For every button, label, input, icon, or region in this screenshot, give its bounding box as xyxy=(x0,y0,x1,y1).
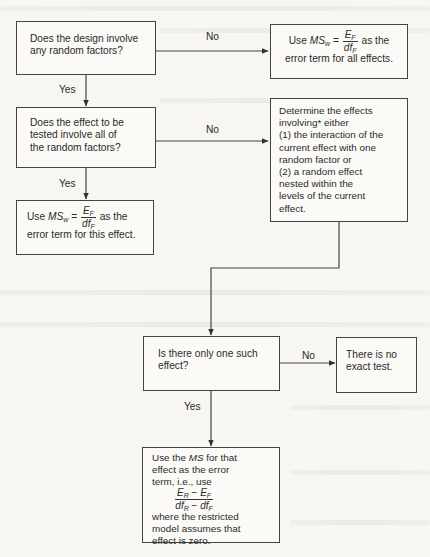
ms-symbol: MS xyxy=(189,452,204,463)
fraction-ef-dff: EFdfF xyxy=(81,206,96,229)
result-no-exact-test: There is no exact test. xyxy=(336,337,417,393)
node-text: effect? xyxy=(158,360,265,372)
process-determine-effects: Determine the effects involving* either … xyxy=(270,98,408,222)
node-text: error term for this effect. xyxy=(27,229,143,241)
node-text: any random factors? xyxy=(30,45,142,57)
edge-label-yes: Yes xyxy=(59,84,76,95)
fraction-er-ef-over-dfr-dff: ER − EF dfR − dfF xyxy=(175,488,213,511)
node-text: effect. xyxy=(279,203,399,215)
node-text: (2) a random effect xyxy=(279,166,399,178)
decision-only-one-effect: Is there only one such effect? xyxy=(143,336,280,391)
node-text: Does the effect to be xyxy=(30,117,142,129)
node-text: levels of the current xyxy=(279,190,399,202)
edge-label-yes: Yes xyxy=(59,178,76,189)
node-text: where the restricted xyxy=(152,511,270,523)
node-text: There is no xyxy=(346,349,407,361)
result-use-effect-ms: Use the MS for that effect as the error … xyxy=(142,447,280,543)
edge-label-no: No xyxy=(302,350,315,361)
node-text: Determine the effects xyxy=(279,105,399,117)
edge-label-no: No xyxy=(206,31,219,42)
node-text: (1) the interaction of the xyxy=(279,129,399,141)
node-text: error term for all effects. xyxy=(275,53,403,65)
node-text: Use xyxy=(27,211,48,222)
node-text: exact test. xyxy=(346,361,407,373)
ms-symbol: MSw xyxy=(48,211,68,222)
edge-label-yes: Yes xyxy=(184,401,201,412)
ms-symbol: MSw xyxy=(310,35,330,46)
node-text: Is there only one such xyxy=(158,348,265,360)
node-text: current effect with one xyxy=(279,142,399,154)
node-text: random factor or xyxy=(279,154,399,166)
node-text: effect as the error xyxy=(152,464,270,476)
node-text: Use xyxy=(289,35,310,46)
node-text: model assumes that xyxy=(152,523,270,535)
node-text: effect is zero. xyxy=(152,535,270,547)
edge-label-no: No xyxy=(206,124,219,135)
result-ms-within-all-effects: Use MSw = EFdfF as the error term for al… xyxy=(270,24,408,79)
node-text: tested involve all of xyxy=(30,129,142,141)
node-text: nested within the xyxy=(279,178,399,190)
node-text: for that xyxy=(204,452,237,463)
decision-design-random-factors: Does the design involve any random facto… xyxy=(16,21,156,75)
decision-effect-all-random-factors: Does the effect to be tested involve all… xyxy=(16,107,156,168)
node-text: Use the xyxy=(152,452,189,463)
node-text: the random factors? xyxy=(30,142,142,154)
node-text: Does the design involve xyxy=(30,33,142,45)
node-text: involving* either xyxy=(279,117,399,129)
node-text: term, i.e., use xyxy=(152,476,270,488)
fraction-ef-dff: EFdfF xyxy=(343,30,358,53)
result-ms-within-this-effect: Use MSw = EFdfF as the error term for th… xyxy=(16,200,154,255)
